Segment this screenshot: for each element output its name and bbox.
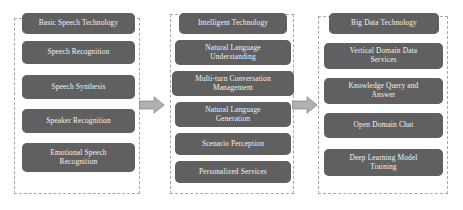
technology-stack-diagram: Basic Speech Technology Speech Recogniti… bbox=[0, 0, 463, 210]
node-knowledge-query-and-answer[interactable]: Knowledge Query and Answer bbox=[324, 78, 443, 104]
group-node-list: Basic Speech Technology Speech Recogniti… bbox=[15, 19, 139, 193]
node-vertical-domain-data-services[interactable]: Vertical Domain Data Services bbox=[324, 43, 443, 69]
node-deep-learning-model-training[interactable]: Deep Learning Model Training bbox=[324, 149, 443, 176]
node-intelligent-technology[interactable]: Intelligent Technology bbox=[179, 13, 287, 34]
group-node-list: Big Data Technology Vertical Domain Data… bbox=[319, 17, 447, 193]
node-basic-speech-technology[interactable]: Basic Speech Technology bbox=[22, 13, 135, 34]
arrow-right-icon-stage-1-to-2 bbox=[139, 96, 165, 114]
group-intelligent-technology: Intelligent Technology Natural Language … bbox=[170, 14, 294, 194]
node-open-domain-chat[interactable]: Open Domain Chat bbox=[324, 113, 443, 138]
group-node-list: Intelligent Technology Natural Language … bbox=[171, 15, 293, 193]
node-multi-turn-conversation-management[interactable]: Multi-turn Conversation Management bbox=[172, 71, 294, 96]
node-natural-language-understanding[interactable]: Natural Language Understanding bbox=[175, 40, 291, 65]
node-big-data-technology[interactable]: Big Data Technology bbox=[329, 13, 439, 34]
node-scenario-perception[interactable]: Scenario Perception bbox=[175, 133, 291, 155]
node-personalized-services[interactable]: Personalized Services bbox=[175, 161, 291, 183]
node-speaker-recognition[interactable]: Speaker Recognition bbox=[22, 109, 135, 133]
node-speech-synthesis[interactable]: Speech Synthesis bbox=[22, 75, 135, 99]
arrow-right-icon-stage-2-to-3 bbox=[292, 96, 318, 114]
node-natural-language-generation[interactable]: Natural Language Generation bbox=[175, 102, 291, 127]
node-speech-recognition[interactable]: Speech Recognition bbox=[22, 41, 135, 64]
node-emotional-speech-recognition[interactable]: Emotional Speech Recognition bbox=[22, 143, 135, 172]
group-big-data-technology: Big Data Technology Vertical Domain Data… bbox=[318, 16, 448, 194]
group-basic-speech-technology: Basic Speech Technology Speech Recogniti… bbox=[14, 18, 140, 194]
